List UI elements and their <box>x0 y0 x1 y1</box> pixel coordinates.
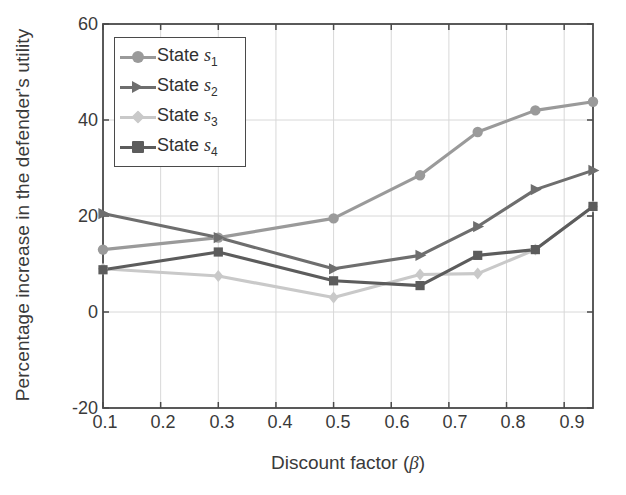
legend-marker-triangle-icon <box>119 76 157 98</box>
x-axis-title: Discount factor (β) <box>103 452 593 474</box>
legend-marker-diamond-icon <box>119 106 157 128</box>
legend-label: State s1 <box>157 46 218 68</box>
x-axis-title-text: Discount factor (β) <box>271 452 425 473</box>
plot-area <box>0 0 626 495</box>
legend: State s1 State s2 State s3 State s4 <box>114 37 246 167</box>
legend-item-state-s4[interactable]: State s4 <box>119 132 245 162</box>
legend-label: State s4 <box>157 136 218 158</box>
legend-marker-circle-icon <box>119 46 157 68</box>
legend-item-state-s2[interactable]: State s2 <box>119 72 245 102</box>
legend-label: State s2 <box>157 76 218 98</box>
legend-marker-square-icon <box>119 136 157 158</box>
legend-label: State s3 <box>157 106 218 128</box>
legend-item-state-s3[interactable]: State s3 <box>119 102 245 132</box>
legend-item-state-s1[interactable]: State s1 <box>119 42 245 72</box>
figure-chart: Percentage increase in the defender's ut… <box>0 0 626 495</box>
